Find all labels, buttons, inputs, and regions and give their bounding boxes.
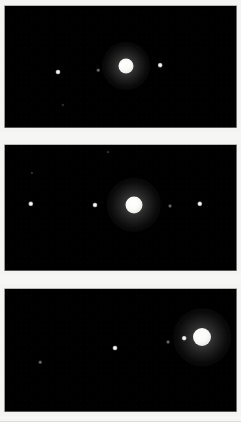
- exposure-panel: [0, 140, 241, 275]
- exposure-panel: [0, 1, 241, 132]
- plate-edge-bottom: [4, 127, 237, 128]
- moon-point: [92, 202, 97, 207]
- moon-point: [30, 171, 33, 174]
- photographic-plate: [4, 144, 237, 271]
- plate-edge-top: [4, 288, 237, 289]
- plate-edge-right: [236, 144, 237, 271]
- plate-edge-left: [4, 144, 5, 271]
- moon-point: [168, 204, 172, 208]
- moon-point: [166, 340, 170, 344]
- plate-edge-left: [4, 5, 5, 128]
- plate-edge-right: [236, 5, 237, 128]
- film-grain-texture: [4, 288, 237, 412]
- plate-edge-top: [4, 5, 237, 6]
- moon-point: [55, 69, 60, 74]
- moon-point: [61, 103, 64, 106]
- moon-point: [28, 201, 33, 206]
- jupiter-disc: [126, 197, 143, 214]
- moon-point: [112, 345, 117, 350]
- plate-edge-top: [4, 144, 237, 145]
- moon-point: [182, 336, 187, 341]
- plate-edge-bottom: [4, 270, 237, 271]
- jupiter-disc: [119, 59, 134, 74]
- plate-edge-left: [4, 288, 5, 412]
- moon-point: [38, 360, 42, 364]
- moon-point: [158, 63, 163, 68]
- moon-point: [107, 151, 110, 154]
- photographic-plate: [4, 288, 237, 412]
- moon-point: [96, 68, 100, 72]
- film-grain-texture: [4, 144, 237, 271]
- exposure-panel: [0, 284, 241, 416]
- plate-edge-right: [236, 288, 237, 412]
- photographic-plate: [4, 5, 237, 128]
- jupiter-disc: [193, 328, 211, 346]
- plate-edge-bottom: [4, 411, 237, 412]
- exposure-panel-stack: [0, 0, 241, 422]
- moon-point: [197, 201, 202, 206]
